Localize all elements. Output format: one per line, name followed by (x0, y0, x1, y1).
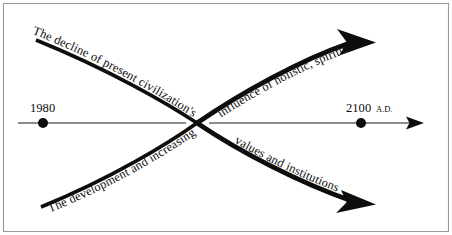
time-label-1980: 1980 (30, 101, 55, 115)
time-label-2100: 2100 (346, 101, 371, 115)
crossing-curves-diagram: The decline of present civilization's va… (0, 0, 452, 235)
time-point-2100 (356, 118, 366, 128)
declining-curve-label-tail: values and institutions (232, 133, 341, 195)
declining-curve-arrowhead (336, 190, 376, 213)
rising-curve-label-head: The development and increasing (46, 125, 198, 215)
time-axis (18, 117, 424, 130)
time-point-1980 (38, 118, 48, 128)
declining-curve-label-head: The decline of present civilization's (31, 24, 200, 120)
time-label-2100-suffix: A.D. (376, 104, 393, 114)
